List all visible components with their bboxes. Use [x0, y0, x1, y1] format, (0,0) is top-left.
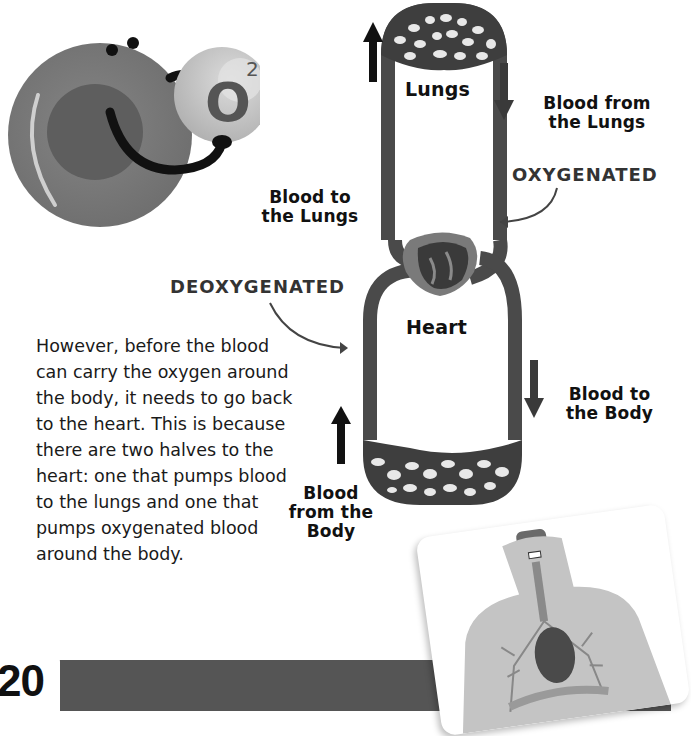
- blood-to-body-line2: the Body: [552, 404, 667, 423]
- deoxygenated-label: DEOXYGENATED: [170, 276, 345, 297]
- page-number: 20: [0, 656, 44, 706]
- lungs-label: Lungs: [405, 80, 470, 99]
- oxygenated-label: OXYGENATED: [512, 164, 658, 185]
- arrow-up-body-icon: [331, 406, 351, 464]
- arrow-up-lungs-icon: [363, 22, 383, 82]
- blood-to-lungs-label: Blood to the Lungs: [250, 188, 370, 226]
- blood-to-body-line1: Blood to: [552, 385, 667, 404]
- blood-to-lungs-line2: the Lungs: [250, 207, 370, 226]
- blood-from-lungs-label: Blood from the Lungs: [527, 94, 667, 132]
- blood-to-lungs-line1: Blood to: [250, 188, 370, 207]
- arrow-down-body-icon: [524, 360, 544, 418]
- lungs-loop: [381, 3, 507, 240]
- torso-inset-card: [415, 504, 690, 736]
- heart-label: Heart: [406, 318, 467, 337]
- torso-illustration-icon: [415, 504, 690, 736]
- blood-to-body-label: Blood to the Body: [552, 385, 667, 423]
- oxygenated-pointer-arrow: [500, 188, 557, 222]
- heart-organ-icon: [403, 232, 477, 296]
- blood-from-lungs-line1: Blood from: [527, 94, 667, 113]
- blood-from-lungs-line2: the Lungs: [527, 113, 667, 132]
- explanation-paragraph: However, before the blood can carry the …: [36, 333, 296, 567]
